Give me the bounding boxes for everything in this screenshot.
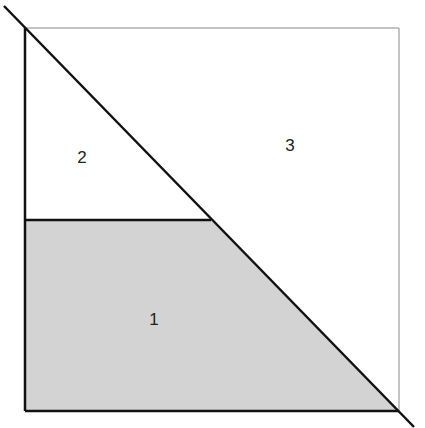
region-2-label: 2 [77,148,86,167]
region-1-label: 1 [149,310,158,329]
region-1-fill [25,220,398,411]
region-diagram: 1 2 3 [0,0,425,428]
region-3-label: 3 [285,136,294,155]
